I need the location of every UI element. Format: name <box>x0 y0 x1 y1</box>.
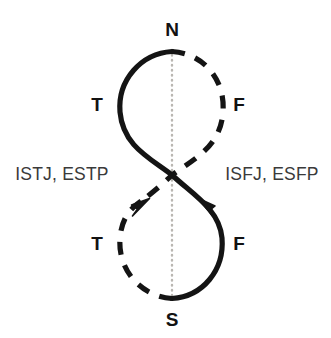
pole-label-thinking-upper: T <box>91 95 103 114</box>
lower-right-solid-arc <box>172 175 222 299</box>
figure-eight-diagram: N S T F T F ISTJ, ESTP ISFJ, ESFP <box>0 0 331 338</box>
lower-left-dashed-arc <box>120 201 172 299</box>
lower-left-dashed-arc-tail <box>148 175 172 196</box>
pole-label-feeling-upper: F <box>233 95 245 114</box>
upper-right-dashed-arc <box>172 52 223 176</box>
pole-label-thinking-lower: T <box>91 234 103 253</box>
pole-label-north: N <box>165 20 179 39</box>
type-codes-right: ISFJ, ESFP <box>225 166 318 184</box>
pole-label-south: S <box>166 310 179 329</box>
lower-right-arrowhead-icon <box>198 198 216 218</box>
pole-label-feeling-lower: F <box>233 234 245 253</box>
type-codes-left: ISTJ, ESTP <box>15 166 108 184</box>
lower-left-arrowhead-icon <box>132 199 150 217</box>
upper-left-solid-arc <box>120 52 172 176</box>
